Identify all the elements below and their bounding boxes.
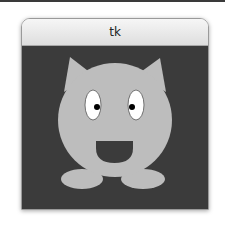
tk-window: tk bbox=[21, 18, 209, 210]
window-title: tk bbox=[109, 25, 121, 39]
screen-top-edge bbox=[0, 0, 225, 2]
drawing-canvas[interactable] bbox=[22, 46, 208, 210]
right-pupil bbox=[129, 104, 135, 110]
mouth bbox=[96, 141, 133, 163]
window-titlebar[interactable]: tk bbox=[22, 19, 208, 46]
left-pupil bbox=[94, 104, 100, 110]
cat-creature-icon bbox=[22, 46, 209, 210]
